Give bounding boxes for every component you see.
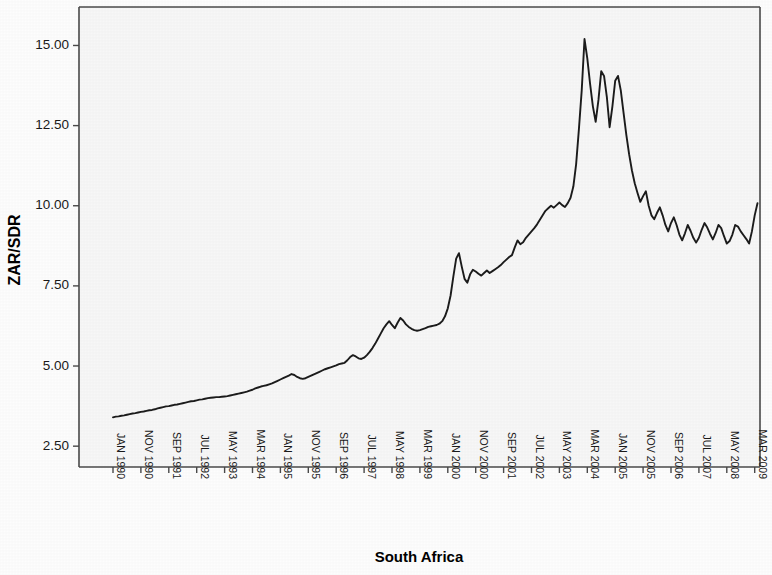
x-tick-label: JUL 2007 <box>701 434 713 479</box>
x-tick-label: MAY 2003 <box>561 431 573 479</box>
y-tick-label: 2.50 <box>43 438 69 453</box>
y-axis-title: ZAR/SDR <box>6 214 23 286</box>
x-tick-label: SEP 2006 <box>673 432 685 479</box>
x-tick-label: SEP 1991 <box>171 432 183 479</box>
x-tick-label: MAY 1993 <box>227 431 239 479</box>
y-tick-label: 15.00 <box>35 37 69 52</box>
y-tick-label: 5.00 <box>43 358 69 373</box>
x-tick-label: JUL 2002 <box>534 434 546 479</box>
x-tick-label: MAR 2004 <box>589 429 601 479</box>
plot-area-background <box>79 7 760 467</box>
x-tick-label: JAN 1990 <box>115 433 127 479</box>
x-tick-label: MAR 1999 <box>422 429 434 479</box>
line-chart: 2.505.007.5010.0012.5015.00 JAN 1990NOV … <box>0 0 772 575</box>
chart-figure: 2.505.007.5010.0012.5015.00 JAN 1990NOV … <box>0 0 772 575</box>
x-tick-label: NOV 1990 <box>143 430 155 479</box>
y-axis-ticks: 2.505.007.5010.0012.5015.00 <box>35 37 79 453</box>
x-tick-label: MAR 1994 <box>255 429 267 479</box>
y-tick-label: 7.50 <box>43 277 69 292</box>
x-axis-title: South Africa <box>375 548 464 565</box>
x-tick-label: JUL 1992 <box>199 434 211 479</box>
x-tick-label: MAY 2008 <box>729 431 741 479</box>
x-tick-label: NOV 2000 <box>478 430 490 479</box>
x-tick-label: JAN 2005 <box>617 433 629 479</box>
x-tick-label: JAN 1995 <box>282 433 294 479</box>
y-tick-label: 12.50 <box>35 117 69 132</box>
y-tick-label: 10.00 <box>35 197 69 212</box>
x-tick-label: JAN 2000 <box>450 433 462 479</box>
x-tick-label: MAR 2009 <box>757 429 769 479</box>
x-tick-label: JUL 1997 <box>366 434 378 479</box>
x-tick-label: MAY 1998 <box>394 431 406 479</box>
x-tick-label: SEP 1996 <box>338 432 350 479</box>
x-tick-label: NOV 1995 <box>310 430 322 479</box>
x-tick-label: SEP 2001 <box>506 432 518 479</box>
x-tick-label: NOV 2005 <box>645 430 657 479</box>
